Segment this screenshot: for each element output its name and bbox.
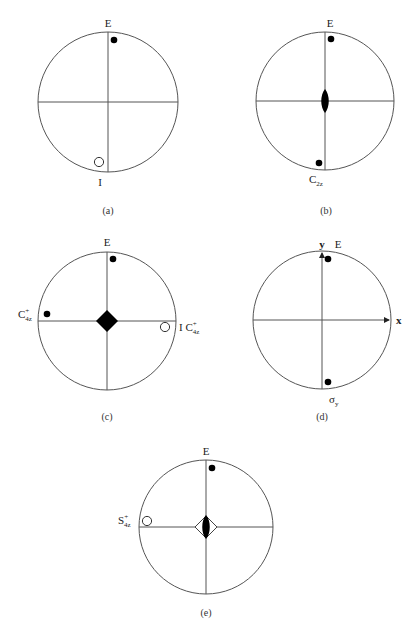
panel-e: E S+4z (e) — [118, 445, 273, 619]
point-s4z-open — [142, 516, 151, 525]
point-e-filled — [325, 256, 332, 263]
point-i-open — [94, 157, 103, 166]
panel-a: E I (a) — [38, 17, 178, 217]
label-s4z: S+4z — [118, 513, 131, 529]
label-c4z: C+4z — [18, 307, 32, 323]
stereogram-figure: E I (a) E C2z (b) E C+4z I C+4z (c) — [0, 0, 414, 627]
panel-c: E C+4z I C+4z (c) — [18, 236, 199, 423]
label-e: E — [335, 238, 342, 250]
label-i: I — [98, 176, 102, 188]
label-e: E — [104, 236, 111, 248]
point-e-filled — [209, 465, 216, 472]
two-fold-axis-icon — [321, 89, 329, 113]
caption-e: (e) — [200, 607, 211, 619]
point-e-filled — [328, 36, 335, 43]
caption-d: (d) — [316, 411, 328, 423]
label-e: E — [203, 445, 210, 457]
four-fold-axis-icon — [96, 310, 118, 332]
point-ic4z-open — [160, 322, 169, 331]
label-x-axis: x — [396, 314, 402, 326]
point-c2z-filled — [316, 160, 323, 167]
point-sigma-y-filled — [325, 379, 332, 386]
panel-d: y E x σy (d) — [253, 238, 402, 423]
label-y-axis: y — [319, 238, 325, 250]
label-sigma-y: σy — [329, 393, 339, 408]
point-e-filled — [111, 37, 118, 44]
panel-b: E C2z (b) — [256, 17, 394, 217]
caption-c: (c) — [101, 411, 112, 423]
point-c4z-filled — [44, 311, 51, 318]
label-c2z: C2z — [309, 173, 323, 188]
caption-a: (a) — [102, 205, 113, 217]
label-ic4z: I C+4z — [179, 320, 199, 336]
caption-b: (b) — [320, 205, 332, 217]
label-e: E — [327, 17, 334, 29]
point-e-filled — [110, 256, 117, 263]
label-e: E — [105, 17, 112, 29]
